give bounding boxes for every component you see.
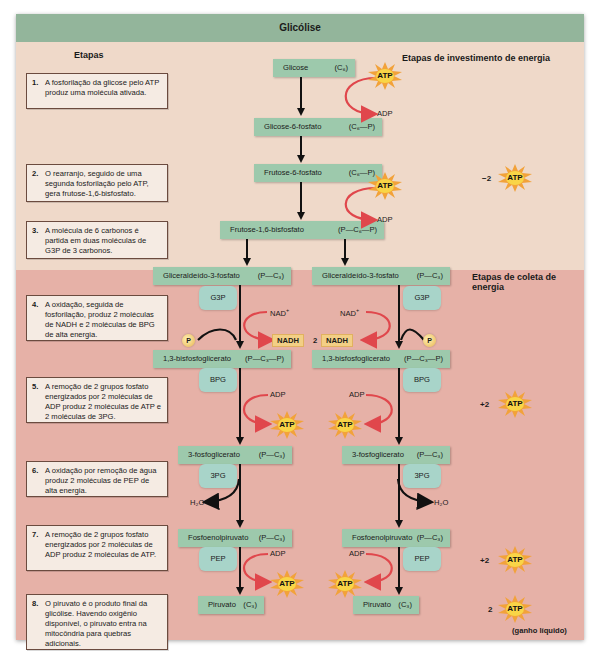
- adp-label: ADP: [270, 549, 286, 558]
- arrow-shaft: [239, 285, 241, 341]
- molecule-glicose-6-fosfato: Glicose-6-fosfato(C₆—P): [254, 118, 382, 136]
- step-6: 6.A oxidação por remoção de água produz …: [26, 461, 168, 497]
- nad-label-left: NAD+: [270, 307, 289, 318]
- abbr-bpg-left: BPG: [199, 368, 237, 392]
- step-7: 7.A remoção de 2 grupos fosfato energiza…: [26, 525, 168, 571]
- step-text: O piruvato é o produto final da glicólis…: [45, 599, 147, 648]
- step-text: A fosforilação da glicose pelo ATP produ…: [45, 78, 159, 97]
- arrow-down-icon: [236, 520, 244, 528]
- nadh-count: 2: [313, 336, 317, 345]
- step-4: 4.A oxidação, seguida de fosforilação, p…: [26, 295, 168, 341]
- step-2: 2.O rearranjo, seguido de uma segunda fo…: [26, 164, 168, 202]
- adp-label: ADP: [377, 109, 393, 118]
- arrow-down-icon: [341, 258, 349, 266]
- abbr-bpg-right: BPG: [403, 368, 441, 392]
- phosphate-icon-right: P: [423, 334, 436, 347]
- molecule-g3p-right: Gliceraldeído-3-fosfato(P—C₃): [312, 267, 450, 285]
- molecule-bpg-right: 1,3-bisfosfoglicerato(P—C₃—P): [312, 350, 450, 368]
- net-total-value: 2: [488, 605, 492, 614]
- arrow-down-icon: [236, 437, 244, 445]
- abbr-pep-right: PEP: [403, 547, 441, 571]
- arrow-shaft: [239, 547, 241, 587]
- atp-burst-net-harvest-2: ATP: [498, 546, 532, 574]
- arrow-down-icon: [297, 212, 305, 220]
- net-harvest-1-value: +2: [480, 400, 489, 409]
- abbr-g3p-right: G3P: [403, 286, 441, 310]
- nadh-right: NADH: [321, 334, 353, 347]
- arrow-shaft: [398, 285, 400, 341]
- atp-burst-step2: ATP: [368, 172, 402, 200]
- abbr-3pg-left: 3PG: [199, 464, 237, 488]
- atp-burst-net-total: ATP: [498, 595, 532, 623]
- arrow-shaft: [398, 368, 400, 437]
- adp-label: ADP: [270, 390, 286, 399]
- arrow-shaft: [398, 547, 400, 587]
- arrow-shaft: [398, 464, 400, 520]
- arrow-shaft: [300, 77, 302, 109]
- atp-burst: ATP: [328, 570, 362, 598]
- arrow-down-icon: [236, 341, 244, 349]
- step-3: 3.A molécula de 6 carbonos é partida em …: [26, 221, 168, 259]
- atp-burst-net-investment: ATP: [498, 164, 532, 192]
- abbr-3pg-right: 3PG: [403, 464, 441, 488]
- arrow-down-icon: [395, 437, 403, 445]
- arrow-down-icon: [395, 587, 403, 595]
- arrow-shaft: [246, 239, 248, 259]
- step-1: 1.A fosforilação da glicose pelo ATP pro…: [26, 73, 168, 109]
- arrow-shaft: [239, 464, 241, 520]
- step-text: A oxidação, seguida de fosforilação, pro…: [45, 300, 155, 339]
- arrow-shaft: [344, 239, 346, 259]
- molecule-glicose: Glicose(C₆): [273, 59, 355, 77]
- arrow-down-icon: [243, 258, 251, 266]
- abbr-g3p-left: G3P: [199, 286, 237, 310]
- adp-label: ADP: [349, 390, 365, 399]
- atp-burst-step1: ATP: [368, 62, 402, 90]
- nad-label-right: NAD+: [340, 307, 359, 318]
- step-text: A remoção de 2 grupos fosfato energizado…: [45, 530, 156, 559]
- molecule-g3p-left: Gliceraldeído-3-fosfato(P—C₃): [153, 267, 291, 285]
- nadh-left: NADH: [272, 334, 304, 347]
- molecule-bpg-left: 1,3-bisfosfoglicerato(P—C₃—P): [153, 350, 291, 368]
- step-text: A oxidação por remoção de água produz 2 …: [45, 466, 156, 495]
- atp-burst: ATP: [270, 411, 304, 439]
- molecule-pep-right: Fosfoenolpiruvato(P—C₃): [342, 529, 450, 547]
- step-text: A molécula de 6 carbonos é partida em du…: [45, 226, 146, 255]
- step-text: A remoção de 2 grupos fosfato energizado…: [45, 382, 161, 421]
- molecule-frutose-6-fosfato: Frutose-6-fosfato(C₆—P): [254, 164, 382, 182]
- arrow-down-icon: [297, 155, 305, 163]
- arrow-down-icon: [297, 108, 305, 116]
- adp-label: ADP: [349, 549, 365, 558]
- harvest-heading: Etapas de coleta de energia: [472, 272, 584, 292]
- arrow-down-icon: [236, 587, 244, 595]
- investment-heading: Etapas de investimento de energia: [402, 53, 550, 63]
- molecule-3pg-right: 3-fosfoglicerato(P—C₃): [342, 446, 450, 464]
- arrow-shaft: [239, 368, 241, 437]
- phosphate-icon-left: P: [182, 334, 195, 347]
- net-gain-label: (ganho líquido): [512, 626, 567, 635]
- atp-burst-net-harvest-1: ATP: [498, 390, 532, 418]
- step-text: O rearranjo, seguido de uma segunda fosf…: [45, 169, 149, 198]
- atp-burst: ATP: [270, 570, 304, 598]
- arrow-down-icon: [395, 520, 403, 528]
- glycolysis-diagram: Glicólise Etapas Etapas de investimento …: [16, 14, 584, 640]
- atp-burst: ATP: [328, 411, 362, 439]
- step-5: 5.A remoção de 2 grupos fosfato energiza…: [26, 377, 168, 423]
- net-investment-value: −2: [482, 174, 491, 183]
- molecule-piruvato-left: Piruvato(C₃): [198, 596, 264, 614]
- abbr-pep-left: PEP: [199, 547, 237, 571]
- arrow-shaft: [300, 182, 302, 213]
- stages-heading: Etapas: [74, 50, 104, 60]
- molecule-frutose-1-6-bisfosfato: Frutose-1,6-bisfosfato(P—C₆—P): [220, 221, 384, 239]
- molecule-piruvato-right: Piruvato(C₃): [353, 596, 419, 614]
- step-8: 8.O piruvato é o produto final da glicól…: [26, 594, 168, 650]
- net-harvest-2-value: +2: [480, 556, 489, 565]
- arrow-shaft: [300, 136, 302, 156]
- diagram-title: Glicólise: [16, 14, 584, 42]
- water-label-left: H₂O: [190, 498, 204, 507]
- molecule-3pg-left: 3-fosfoglicerato(P—C₃): [178, 446, 292, 464]
- water-label-right: H₂O: [434, 498, 448, 507]
- molecule-pep-left: Fosfoenolpiruvato(P—C₃): [178, 529, 292, 547]
- arrow-down-icon: [395, 341, 403, 349]
- adp-label: ADP: [377, 215, 393, 224]
